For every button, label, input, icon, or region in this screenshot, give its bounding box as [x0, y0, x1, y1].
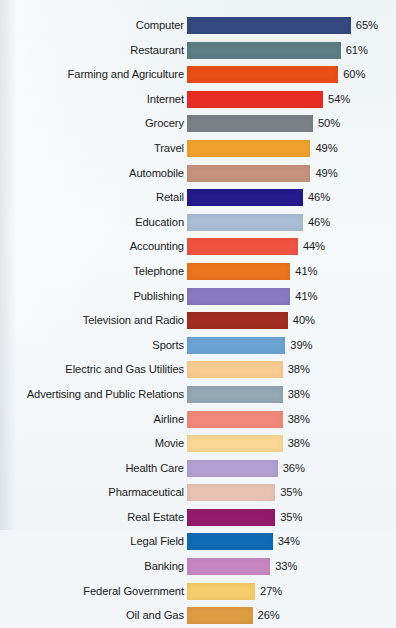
bar	[187, 484, 275, 501]
bar	[187, 263, 290, 280]
bar-and-value: 38%	[187, 361, 310, 378]
category-label: Accounting	[0, 238, 184, 255]
bar	[187, 91, 323, 108]
bar-row: Health Care36%	[0, 460, 396, 485]
bar-value-label: 38%	[288, 386, 310, 403]
bar-value-label: 38%	[288, 361, 310, 378]
bar	[187, 312, 288, 329]
category-label: Airline	[0, 411, 184, 428]
category-label: Education	[0, 214, 184, 231]
bar-and-value: 54%	[187, 91, 350, 108]
bar-value-label: 39%	[290, 337, 312, 354]
bar	[187, 558, 270, 575]
bar-value-label: 41%	[295, 288, 317, 305]
bar-and-value: 50%	[187, 115, 340, 132]
bar	[187, 411, 283, 428]
bar-value-label: 40%	[293, 312, 315, 329]
bar	[187, 386, 283, 403]
bar-row: Publishing41%	[0, 288, 396, 313]
category-label: Federal Government	[0, 583, 184, 600]
bar-row: Pharmaceutical35%	[0, 484, 396, 509]
bar	[187, 17, 351, 34]
bar-value-label: 50%	[318, 115, 340, 132]
bar-row: Television and Radio40%	[0, 312, 396, 337]
bar-and-value: 40%	[187, 312, 315, 329]
bar-and-value: 38%	[187, 435, 310, 452]
bar-value-label: 34%	[278, 533, 300, 550]
category-label: Oil and Gas	[0, 607, 184, 624]
category-label: Sports	[0, 337, 184, 354]
bar-and-value: 35%	[187, 484, 302, 501]
bar-row: Movie38%	[0, 435, 396, 460]
bar-value-label: 38%	[288, 435, 310, 452]
category-label: Electric and Gas Utilities	[0, 361, 184, 378]
bar-and-value: 33%	[187, 558, 297, 575]
bar-row: Internet54%	[0, 91, 396, 116]
bar-and-value: 41%	[187, 288, 317, 305]
bar	[187, 533, 273, 550]
bar	[187, 66, 338, 83]
bar-value-label: 26%	[258, 607, 280, 624]
bar	[187, 435, 283, 452]
bar-value-label: 36%	[283, 460, 305, 477]
bar-row: Restaurant61%	[0, 42, 396, 67]
bar-and-value: 49%	[187, 140, 338, 157]
bar-value-label: 49%	[315, 140, 337, 157]
bar-value-label: 54%	[328, 91, 350, 108]
bar-and-value: 27%	[187, 583, 282, 600]
bar-value-label: 46%	[308, 189, 330, 206]
category-label: Television and Radio	[0, 312, 184, 329]
bar	[187, 337, 285, 354]
bar-and-value: 60%	[187, 66, 365, 83]
bar	[187, 288, 290, 305]
category-label: Farming and Agriculture	[0, 66, 184, 83]
category-label: Grocery	[0, 115, 184, 132]
category-label: Automobile	[0, 165, 184, 182]
category-label: Real Estate	[0, 509, 184, 526]
bar-row: Banking33%	[0, 558, 396, 583]
bar-and-value: 44%	[187, 238, 325, 255]
bar-and-value: 61%	[187, 42, 368, 59]
bar-row: Airline38%	[0, 411, 396, 436]
bar-and-value: 26%	[187, 607, 280, 624]
bar-row: Advertising and Public Relations38%	[0, 386, 396, 411]
bar	[187, 214, 303, 231]
category-label: Restaurant	[0, 42, 184, 59]
category-label: Banking	[0, 558, 184, 575]
bar-row: Telephone41%	[0, 263, 396, 288]
bar-row: Computer65%	[0, 17, 396, 42]
bar-and-value: 46%	[187, 214, 330, 231]
category-label: Telephone	[0, 263, 184, 280]
bar-row: Electric and Gas Utilities38%	[0, 361, 396, 386]
bar-row: Real Estate35%	[0, 509, 396, 534]
category-label: Travel	[0, 140, 184, 157]
bar-row: Legal Field34%	[0, 533, 396, 558]
category-label: Health Care	[0, 460, 184, 477]
bar	[187, 583, 255, 600]
bar	[187, 115, 313, 132]
bar-value-label: 46%	[308, 214, 330, 231]
bar	[187, 42, 341, 59]
bar-value-label: 44%	[303, 238, 325, 255]
bar-and-value: 35%	[187, 509, 302, 526]
bar-and-value: 38%	[187, 386, 310, 403]
category-label: Retail	[0, 189, 184, 206]
bar-row: Education46%	[0, 214, 396, 239]
category-label: Publishing	[0, 288, 184, 305]
bar-value-label: 27%	[260, 583, 282, 600]
bar-row: Grocery50%	[0, 115, 396, 140]
bar-value-label: 49%	[315, 165, 337, 182]
bar-and-value: 49%	[187, 165, 338, 182]
category-label: Advertising and Public Relations	[0, 386, 184, 403]
bar-row: Automobile49%	[0, 165, 396, 190]
bar-and-value: 39%	[187, 337, 312, 354]
bar	[187, 140, 310, 157]
bar	[187, 165, 310, 182]
bar-row: Retail46%	[0, 189, 396, 214]
category-label: Internet	[0, 91, 184, 108]
bar-and-value: 41%	[187, 263, 317, 280]
bar-row: Farming and Agriculture60%	[0, 66, 396, 91]
bar-row: Accounting44%	[0, 238, 396, 263]
bar-row: Federal Government27%	[0, 583, 396, 608]
